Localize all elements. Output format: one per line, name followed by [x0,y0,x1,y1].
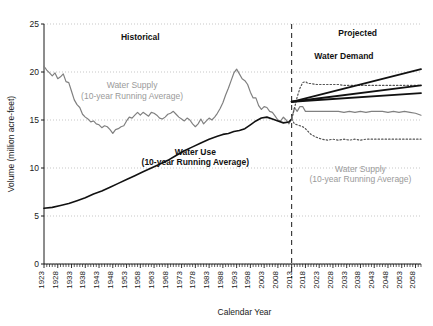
annotation-supply-proj-1: Water Supply [335,164,386,174]
x-tick-label: 1938 [78,270,87,288]
y-tick-label: 5 [34,211,39,221]
annotation-projected: Projected [338,28,377,38]
x-tick-label: 2033 [340,270,349,288]
y-tick-label: 25 [30,19,40,29]
x-tick-label: 1963 [147,270,156,288]
x-tick-label: 1948 [106,270,115,288]
annotation-supply-proj-2: (10-year Running Average) [310,174,412,184]
x-tick-label: 2038 [353,270,362,288]
x-axis-title: Calendar Year [218,307,272,317]
y-tick-label: 0 [34,259,39,269]
x-tick-label: 1988 [216,270,225,288]
annotation-use-hist-1: Water Use [175,147,217,157]
x-tick-label: 2018 [298,270,307,288]
x-tick-label: 2048 [381,270,390,288]
x-tick-label: 1978 [188,270,197,288]
annotations: HistoricalProjectedWater Supply(10-year … [81,28,411,185]
x-tick-label: 2013 [285,270,294,288]
x-tick-label: 1968 [161,270,170,288]
x-tick-label: 2003 [257,270,266,288]
annotation-supply-hist-2: (10-year Running Average) [81,91,183,101]
x-tick-label: 2043 [367,270,376,288]
y-axis-title: Volume (million acre-feet) [6,96,16,193]
x-tick-label: 2023 [312,270,321,288]
x-tick-label: 1928 [51,270,60,288]
chart-canvas: 0510152025Volume (million acre-feet)1923… [0,0,433,326]
y-tick-label: 15 [30,115,40,125]
x-axis: 1923192819331938194319481953195819631968… [37,264,421,289]
x-tick-label: 2053 [395,270,404,288]
water-supply-demand-chart: 0510152025Volume (million acre-feet)1923… [0,0,433,326]
x-tick-label: 1973 [175,270,184,288]
x-tick-label: 2008 [271,270,280,288]
x-tick-label: 1943 [92,270,101,288]
annotation-historical: Historical [121,32,160,42]
x-tick-label: 1998 [243,270,252,288]
x-tick-label: 1958 [133,270,142,288]
x-tick-label: 2058 [408,270,417,288]
x-tick-label: 1993 [230,270,239,288]
x-tick-label: 1983 [202,270,211,288]
data-series [44,66,421,208]
y-tick-label: 10 [30,163,40,173]
y-axis: 0510152025 [30,19,44,269]
annotation-use-hist-2: (10-year Running Average) [142,157,250,167]
annotation-supply-hist-1: Water Supply [107,80,158,90]
annotation-demand-proj: Water Demand [314,51,373,61]
x-tick-label: 2028 [326,270,335,288]
x-tick-label: 1933 [65,270,74,288]
x-tick-label: 1953 [120,270,129,288]
series-line [292,107,421,119]
x-tick-label: 1923 [37,270,46,288]
series-line [292,119,421,140]
y-tick-label: 20 [30,67,40,77]
